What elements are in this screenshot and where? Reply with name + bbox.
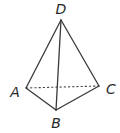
edge-db [56, 20, 61, 110]
edge-bc [56, 86, 99, 110]
vertex-label-a: A [9, 84, 20, 100]
vertex-label-b: B [51, 115, 61, 131]
edge-ab [26, 88, 56, 110]
edge-ac-hidden [26, 86, 99, 88]
edge-da [26, 20, 61, 88]
vertex-label-c: C [106, 81, 116, 97]
vertex-label-d: D [56, 1, 67, 17]
edge-dc [61, 20, 99, 86]
tetrahedron-diagram: D A B C [0, 0, 120, 133]
